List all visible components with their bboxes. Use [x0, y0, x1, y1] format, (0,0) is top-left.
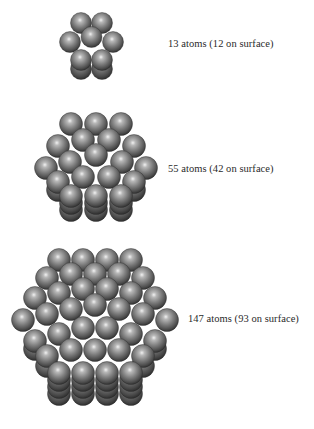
cluster-147-atoms [12, 246, 180, 410]
atom-cluster-medium-image [38, 110, 156, 226]
cluster-13-label: 13 atoms (12 on surface) [168, 38, 274, 49]
atom-cluster-large-image [12, 246, 180, 410]
cluster-55-label: 55 atoms (42 on surface) [168, 163, 274, 174]
cluster-147-label: 147 atoms (93 on surface) [188, 313, 299, 324]
cluster-55-atoms [38, 110, 156, 226]
cluster-13-atoms [60, 10, 132, 86]
atom-cluster-small-image [60, 10, 132, 86]
